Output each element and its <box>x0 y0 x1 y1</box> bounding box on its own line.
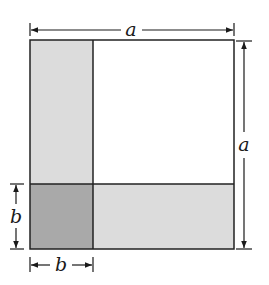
right-dimension: a <box>236 41 252 249</box>
bottom-strip-region <box>93 184 234 249</box>
right-label: a <box>238 133 249 155</box>
top-dimension: a <box>30 18 234 40</box>
top-label: a <box>125 18 136 40</box>
left-dimension: b <box>10 184 24 249</box>
bottom-label: b <box>55 253 67 275</box>
left-strip-region <box>30 40 93 184</box>
large-square-region <box>93 40 234 184</box>
bottom-dimension: b <box>30 253 93 275</box>
small-square-region <box>30 184 93 249</box>
diagram-canvas: a a b b <box>0 0 269 285</box>
left-label: b <box>10 205 22 227</box>
